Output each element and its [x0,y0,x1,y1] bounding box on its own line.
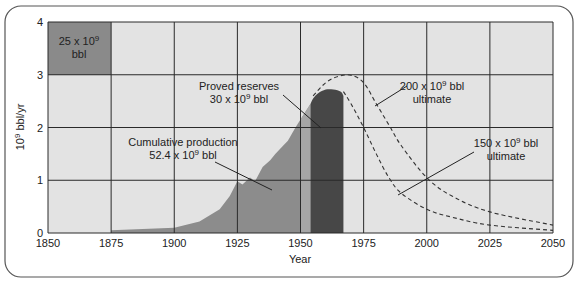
recent-production-strip [301,104,311,233]
x-tick-label: 2000 [415,237,439,249]
x-tick-label: 1975 [351,237,375,249]
scale-key-unit: bbl [72,48,87,60]
ultimate-150-sub: ultimate [487,150,526,162]
proved-reserves-amount: 30 x 109 bbl [210,92,268,105]
y-tick-label: 3 [37,69,43,81]
cumulative-production-label: Cumulative production [128,136,237,148]
x-tick-label: 2025 [478,237,502,249]
x-tick-label: 1875 [99,237,123,249]
y-tick-label: 0 [37,227,43,239]
proved-reserves-label: Proved reserves [199,80,280,92]
ultimate-200-sub: ultimate [413,93,452,105]
scale-key-label: 25 x 109 [59,34,100,47]
x-tick-label: 1925 [225,237,249,249]
cumulative-production-amount: 52.4 x 109 bbl [149,148,216,161]
y-tick-label: 1 [37,174,43,186]
ultimate-200-label: 200 x 109 bbl [400,79,464,92]
x-axis-ticks: 185018751900192519501975200020252050 [36,237,565,249]
x-axis-label: Year [289,253,312,265]
proved-reserves-bar [311,89,344,233]
oil-production-chart: 185018751900192519501975200020252050 012… [0,0,575,283]
y-tick-label: 4 [37,16,43,28]
y-axis-label: 109 bbl/yr [13,103,26,150]
x-tick-label: 1950 [288,237,312,249]
x-tick-label: 1900 [162,237,186,249]
ultimate-150-label: 150 x 109 bbl [474,136,538,149]
x-tick-label: 2050 [541,237,565,249]
y-tick-label: 2 [37,122,43,134]
